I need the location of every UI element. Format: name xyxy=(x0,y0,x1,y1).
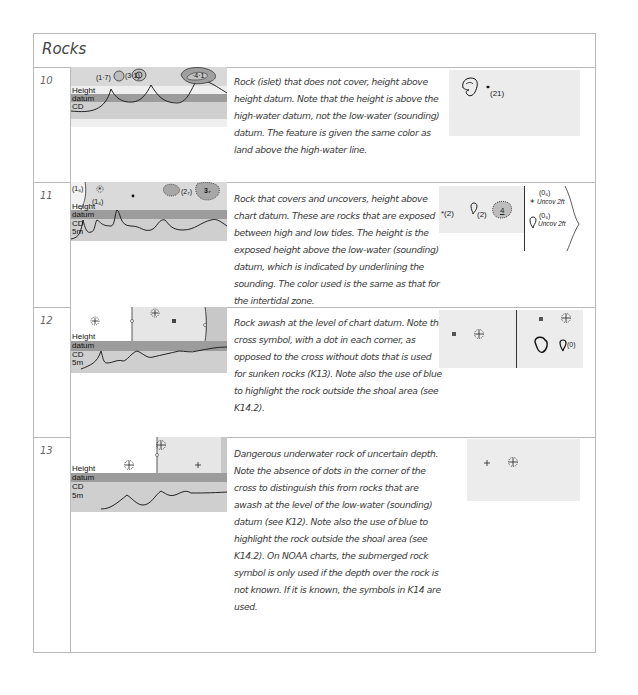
sounding-label: 3₇ xyxy=(204,186,211,195)
row-number: 12 xyxy=(40,315,53,326)
height-label: Height xyxy=(72,332,95,341)
sounding-label: (2₇) xyxy=(181,187,192,196)
noaa-awash-rock-symbols-icon xyxy=(517,310,583,368)
awash-rock-symbols-icon xyxy=(439,310,516,368)
chart-symbol-panel-right: (0) xyxy=(517,310,583,368)
table-row-13: 13 Height datum xyxy=(34,437,595,652)
table-row-10: 10 (1·7) (3·1) ·4·1 Height datum CD xyxy=(34,67,595,183)
drying-rock-height: (2) xyxy=(477,210,487,219)
chart-symbol-panel: (21) xyxy=(449,70,580,136)
noaa-awash-sounding: (0) xyxy=(567,341,576,348)
islet-height: (21) xyxy=(490,89,504,98)
underwater-rock-symbols-icon xyxy=(467,439,580,501)
noaa-uncover-note: Uncov 2ft xyxy=(538,220,565,227)
sounding-label: (3·1) xyxy=(125,71,140,80)
depth-5m-label: 5m xyxy=(72,227,83,236)
datum-label: datum xyxy=(72,341,94,350)
row-description: Dangerous underwater rock of uncertain d… xyxy=(234,445,444,615)
drying-rock-star: *(2) xyxy=(441,209,454,218)
svg-text:*: * xyxy=(530,198,535,208)
section-title: Rocks xyxy=(42,40,86,58)
drying-rock-height-underlined: 4 xyxy=(500,206,504,215)
sounding-label: (1·7) xyxy=(96,73,111,82)
rocks-table: Rocks 10 (1·7) (3·1) ·4·1 Height xyxy=(33,33,596,653)
profile-diagram: Height datum CD 5m xyxy=(71,437,227,652)
table-row-11: 11 * (1₆) (1₆) (2₇) 3₇ Height dat xyxy=(34,182,595,308)
underwater-rock-profile-graphic xyxy=(71,437,227,515)
row-description: Rock that covers and uncovers, height ab… xyxy=(234,190,444,309)
chart-symbol-panel-right: * (0₆) Uncov 2ft (0₆) Uncov 2ft xyxy=(525,186,583,251)
chart-symbol-panel-left xyxy=(439,310,516,368)
chart-symbol-panel xyxy=(467,439,580,501)
row-number: 11 xyxy=(40,190,53,201)
sounding-label: (1₆) xyxy=(72,184,83,193)
height-label: Height xyxy=(72,464,95,473)
row-description: Rock awash at the level of chart datum. … xyxy=(234,314,444,416)
noaa-sounding: (0₆) xyxy=(539,189,550,196)
profile-diagram: (1·7) (3·1) ·4·1 Height datum CD xyxy=(71,67,227,182)
datum-label: datum xyxy=(72,473,94,482)
cd-label: CD xyxy=(72,482,84,491)
section-header: Rocks xyxy=(34,34,595,68)
awash-rock-profile-graphic xyxy=(71,307,227,377)
islet-symbol-icon xyxy=(449,70,580,136)
svg-text:*: * xyxy=(98,186,102,194)
cd-label: CD xyxy=(72,102,84,111)
profile-diagram: * (1₆) (1₆) (2₇) 3₇ Height datum CD 5m xyxy=(71,182,227,307)
datum-label: datum xyxy=(72,210,94,219)
row-description: Rock (islet) that does not cover, height… xyxy=(234,73,444,158)
depth-5m-label: 5m xyxy=(72,358,83,367)
noaa-uncover-note: Uncov 2ft xyxy=(537,198,564,205)
chart-symbol-panel-left: *(2) (2) 4 xyxy=(439,186,524,233)
row-number: 10 xyxy=(40,75,53,86)
table-row-12: 12 xyxy=(34,307,595,438)
row-number: 13 xyxy=(40,445,53,456)
profile-diagram: Height datum CD 5m xyxy=(71,307,227,437)
noaa-sounding: (0₆) xyxy=(539,212,550,219)
sounding-label: ·4·1 xyxy=(192,71,204,80)
noaa-drying-rock-symbols-icon: * xyxy=(525,186,583,251)
depth-5m-label: 5m xyxy=(72,491,83,500)
